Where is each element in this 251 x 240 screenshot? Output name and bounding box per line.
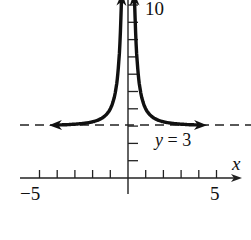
- curve-left-branch: [59, 0, 122, 125]
- x-tick-label-max: 5: [210, 183, 220, 204]
- asymptote-label-var: y: [153, 130, 163, 150]
- chart: 10 −5 5 x y = 3: [0, 0, 251, 240]
- x-axis-label: x: [231, 153, 241, 174]
- x-tick-label-min: −5: [20, 183, 40, 204]
- curve-right-branch: [135, 0, 198, 125]
- y-tick-label-10: 10: [145, 0, 164, 19]
- asymptote-label: y = 3: [153, 130, 191, 150]
- asymptote-label-value: = 3: [163, 130, 191, 150]
